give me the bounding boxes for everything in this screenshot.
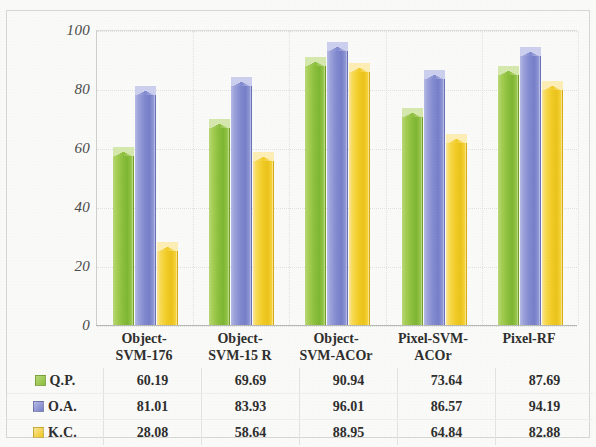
table-row: O.A.81.0183.9396.0186.5794.19 bbox=[7, 394, 593, 420]
category-label-line: Object- bbox=[288, 331, 384, 348]
category-label-5: Pixel-RF bbox=[481, 331, 577, 348]
series-name: Q.P. bbox=[50, 373, 76, 388]
bar-body bbox=[424, 79, 445, 325]
bar-group bbox=[289, 31, 385, 325]
plot-area bbox=[96, 30, 577, 325]
bar-group bbox=[97, 31, 193, 325]
category-label-2: Object-SVM-15 R bbox=[192, 331, 288, 364]
table-cell: 28.08 bbox=[104, 420, 202, 446]
bar-kc-1 bbox=[157, 242, 178, 325]
y-tick-label-40: 40 bbox=[30, 200, 90, 215]
y-tick-label-80: 80 bbox=[30, 82, 90, 97]
bar-body bbox=[446, 143, 467, 325]
bar-group bbox=[386, 31, 482, 325]
bar-oa-2 bbox=[231, 77, 252, 325]
bar-body bbox=[402, 117, 423, 325]
bar-body bbox=[231, 86, 252, 325]
blue-square-icon bbox=[33, 401, 44, 412]
bar-qp-3 bbox=[305, 57, 326, 325]
bar-body bbox=[520, 56, 541, 325]
category-label-3: Object-SVM-ACOr bbox=[288, 331, 384, 364]
table-cell: 88.95 bbox=[300, 420, 398, 446]
table-cell: 64.84 bbox=[398, 420, 496, 446]
bar-kc-5 bbox=[542, 81, 563, 325]
table-row: K.C.28.0858.6488.9564.8482.88 bbox=[7, 420, 593, 446]
table-cell: 73.64 bbox=[398, 368, 496, 394]
category-label-line: SVM-176 bbox=[96, 348, 192, 365]
table-cell: 87.69 bbox=[496, 368, 594, 394]
bar-body bbox=[498, 75, 519, 325]
bar-body bbox=[209, 128, 230, 325]
table-cell: 94.19 bbox=[496, 394, 594, 420]
category-label-1: Object-SVM-176 bbox=[96, 331, 192, 364]
bar-body bbox=[305, 66, 326, 325]
bar-body bbox=[349, 72, 370, 325]
bar-body bbox=[327, 51, 348, 325]
y-tick-label-60: 60 bbox=[30, 141, 90, 156]
table-cell: 58.64 bbox=[202, 420, 300, 446]
bar-chart-figure: 100 80 60 40 20 0 Object-SVM-176Object-S… bbox=[0, 0, 596, 447]
category-label-line: SVM-15 R bbox=[192, 348, 288, 365]
plot-region: 100 80 60 40 20 0 Object-SVM-176Object-S… bbox=[0, 0, 596, 355]
category-label-line: Object- bbox=[192, 331, 288, 348]
bar-qp-5 bbox=[498, 66, 519, 325]
legend-cell-kc: K.C. bbox=[7, 420, 104, 446]
gridline-0 bbox=[97, 326, 577, 327]
bar-body bbox=[542, 90, 563, 325]
bar-kc-2 bbox=[253, 152, 274, 325]
bar-qp-1 bbox=[113, 147, 134, 325]
table-cell: 96.01 bbox=[300, 394, 398, 420]
category-label-line: Object- bbox=[96, 331, 192, 348]
bar-oa-5 bbox=[520, 47, 541, 325]
bar-body bbox=[113, 156, 134, 325]
series-name: O.A. bbox=[48, 399, 77, 414]
bar-kc-3 bbox=[349, 63, 370, 325]
table-cell: 83.93 bbox=[202, 394, 300, 420]
bar-qp-2 bbox=[209, 119, 230, 325]
legend-cell-oa: O.A. bbox=[7, 394, 104, 420]
category-label-line: ACOr bbox=[385, 348, 481, 365]
bar-body bbox=[253, 161, 274, 325]
table-cell: 90.94 bbox=[300, 368, 398, 394]
table-cell: 60.19 bbox=[104, 368, 202, 394]
category-label-4: Pixel-SVM-ACOr bbox=[385, 331, 481, 364]
series-name: K.C. bbox=[48, 425, 77, 440]
category-label-line: Pixel-SVM- bbox=[385, 331, 481, 348]
legend-cell-qp: Q.P. bbox=[7, 368, 104, 394]
y-tick-label-100: 100 bbox=[30, 23, 90, 38]
bar-group bbox=[482, 31, 578, 325]
table-cell: 86.57 bbox=[398, 394, 496, 420]
y-tick-label-0: 0 bbox=[30, 318, 90, 333]
table-cell: 82.88 bbox=[496, 420, 594, 446]
green-square-icon bbox=[35, 375, 46, 386]
table-cell: 81.01 bbox=[104, 394, 202, 420]
table-row: Q.P.60.1969.6990.9473.6487.69 bbox=[7, 368, 593, 394]
category-label-line: SVM-ACOr bbox=[288, 348, 384, 365]
bar-body bbox=[157, 251, 178, 325]
bar-qp-4 bbox=[402, 108, 423, 325]
bar-oa-1 bbox=[135, 86, 156, 325]
bar-oa-3 bbox=[327, 42, 348, 325]
category-label-line: Pixel-RF bbox=[481, 331, 577, 348]
bar-oa-4 bbox=[424, 70, 445, 325]
bar-group bbox=[193, 31, 289, 325]
data-table: Q.P.60.1969.6990.9473.6487.69O.A.81.0183… bbox=[7, 368, 593, 445]
bar-kc-4 bbox=[446, 134, 467, 325]
y-tick-label-20: 20 bbox=[30, 259, 90, 274]
yellow-square-icon bbox=[33, 427, 44, 438]
x-axis-baseline bbox=[96, 325, 577, 326]
bar-body bbox=[135, 95, 156, 325]
table-cell: 69.69 bbox=[202, 368, 300, 394]
